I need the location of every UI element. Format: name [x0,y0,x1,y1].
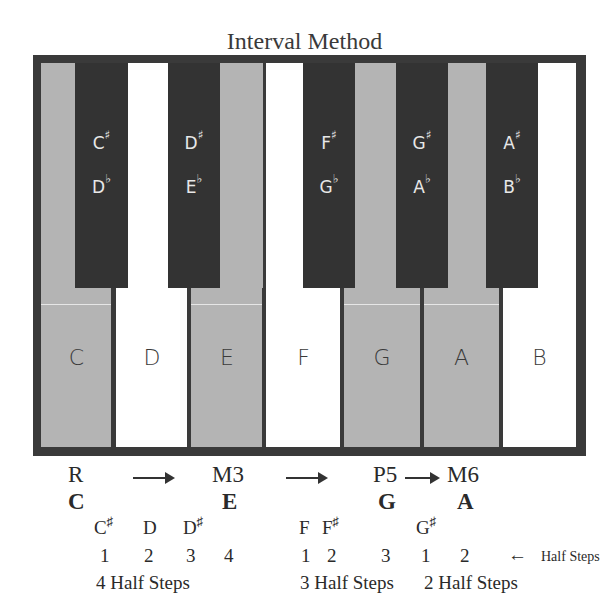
key-label: E [191,345,263,370]
interval-root: R [68,462,83,488]
flat-label: A♭ [396,175,448,197]
passing-note: F [299,517,310,539]
key-label: C [41,345,112,370]
step-count: 1 [301,545,311,567]
sharp-label: D♯ [168,131,220,153]
summary-2-half-steps: 2 Half Steps [424,572,518,594]
summary-4-half-steps: 4 Half Steps [96,572,190,594]
key-label: B [503,345,576,370]
passing-note: D♯ [183,517,203,539]
step-count: 1 [421,545,431,567]
key-divider [420,288,424,447]
black-key-f-sharp[interactable]: F♯ G♭ [303,63,355,288]
sharp-label: C♯ [75,131,128,153]
step-count: 3 [186,545,196,567]
sharp-label: A♯ [486,131,538,153]
note-a: A [457,489,474,515]
flat-label: G♭ [303,175,355,197]
arrow-right-icon [286,477,326,479]
passing-note: F♯ [322,517,339,539]
page-title: Interval Method [0,28,609,55]
interval-m3: M3 [212,462,244,488]
key-divider [187,288,191,447]
sharp-label: G♯ [396,131,448,153]
black-key-a-sharp[interactable]: A♯ B♭ [486,63,538,288]
key-divider [340,288,344,447]
step-count: 1 [100,545,110,567]
step-count: 3 [381,545,391,567]
step-count: 2 [460,545,470,567]
flat-label: E♭ [168,175,220,197]
key-divider [262,288,266,447]
passing-note: G♯ [416,517,436,539]
arrow-right-icon [133,477,173,479]
interval-p5: P5 [373,462,397,488]
flat-label: D♭ [75,175,128,197]
key-divider [499,288,503,447]
key-label: D [116,345,188,370]
interval-m6: M6 [447,462,479,488]
note-e: E [222,489,237,515]
legend-arrow-icon: ← [508,544,527,566]
passing-note: D [143,517,157,539]
key-label: A [424,345,499,370]
black-key-d-sharp[interactable]: D♯ E♭ [168,63,220,288]
black-key-g-sharp[interactable]: G♯ A♭ [396,63,448,288]
arrow-right-icon [405,477,438,479]
passing-note: C♯ [94,517,113,539]
key-divider [111,288,115,447]
key-label: G [344,345,420,370]
step-count: 4 [224,545,234,567]
summary-3-half-steps: 3 Half Steps [300,572,394,594]
note-c: C [68,489,85,515]
note-g: G [378,489,396,515]
legend-label: Half Steps [541,549,600,565]
sharp-label: F♯ [303,131,355,153]
step-count: 2 [327,545,337,567]
black-key-c-sharp[interactable]: C♯ D♭ [75,63,128,288]
key-label: F [266,345,341,370]
flat-label: B♭ [486,175,538,197]
step-count: 2 [144,545,154,567]
